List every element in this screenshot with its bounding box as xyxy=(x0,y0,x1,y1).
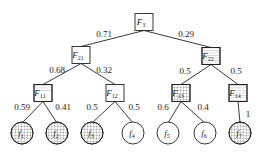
node-subscript: 22 xyxy=(208,56,214,62)
edge-weight: 0.29 xyxy=(178,29,194,39)
node-f3: f3 xyxy=(81,122,103,144)
node-F22: F22 xyxy=(201,48,220,65)
node-f6: f6 xyxy=(194,122,216,144)
node-F14: F14 xyxy=(228,85,247,102)
edge-weight: 0.5 xyxy=(128,102,140,112)
node-f1: f1 xyxy=(11,122,33,144)
node-subscript: 4 xyxy=(132,133,135,139)
node-f2: f2 xyxy=(46,122,68,144)
node-subscript: 11 xyxy=(40,93,46,99)
edge-weight: 0.5 xyxy=(86,102,98,112)
edge-weight: 0.5 xyxy=(179,66,191,76)
weights-layer: 0.710.290.680.320.50.50.590.410.50.50.60… xyxy=(14,29,250,119)
edge-F14-f7 xyxy=(238,102,240,124)
edge-F3-F21 xyxy=(81,31,144,47)
node-f7: f7 xyxy=(229,122,251,144)
node-F13: F13 xyxy=(171,85,190,102)
edge-weight: 0.71 xyxy=(96,29,112,39)
node-subscript: 6 xyxy=(204,133,207,139)
node-subscript: 1 xyxy=(21,133,24,139)
node-F11: F11 xyxy=(33,85,52,102)
node-subscript: 3 xyxy=(142,22,145,28)
node-subscript: 3 xyxy=(91,133,94,139)
edge-weight: 0.5 xyxy=(230,66,242,76)
node-F12: F12 xyxy=(105,85,124,102)
node-F3: F3 xyxy=(135,14,153,31)
edge-F13-f5 xyxy=(168,102,181,124)
edge-weight: 0.41 xyxy=(55,102,71,112)
edge-weight: 1 xyxy=(246,109,251,119)
tree-diagram: F3F21F22F11F12F13F14f1f2f3f4f5f6f7 0.710… xyxy=(0,0,260,155)
node-subscript: 12 xyxy=(112,93,118,99)
node-subscript: 5 xyxy=(167,133,170,139)
node-subscript: 2 xyxy=(56,133,59,139)
node-F21: F21 xyxy=(71,47,90,64)
edge-weight: 0.6 xyxy=(157,102,169,112)
node-subscript: 14 xyxy=(235,93,241,99)
nodes-layer: F3F21F22F11F12F13F14f1f2f3f4f5f6f7 xyxy=(11,14,251,145)
node-subscript: 13 xyxy=(178,93,184,99)
node-subscript: 21 xyxy=(78,55,84,61)
edge-weight: 0.4 xyxy=(197,102,209,112)
edge-weight: 0.32 xyxy=(96,65,112,75)
node-f5: f5 xyxy=(157,122,179,144)
edge-weight: 0.59 xyxy=(14,102,30,112)
node-subscript: 7 xyxy=(239,133,242,139)
edge-weight: 0.68 xyxy=(49,65,65,75)
node-f4: f4 xyxy=(122,122,144,144)
